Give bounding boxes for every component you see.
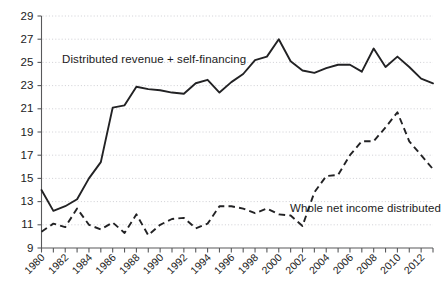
x-tick-label: 2000 — [259, 251, 284, 276]
gridlines-group — [43, 16, 434, 225]
x-tick-label: 1984 — [69, 251, 94, 276]
x-tick-label: 1990 — [140, 251, 165, 276]
x-tick-label: 1992 — [164, 251, 189, 276]
line-chart: 911131517192123252729 198019821984198619… — [0, 0, 446, 296]
x-tick-label: 2006 — [330, 251, 355, 276]
x-tick-label: 2012 — [401, 251, 426, 276]
y-tick-label: 29 — [21, 10, 34, 22]
y-tick-label: 17 — [21, 149, 34, 161]
x-tick-label: 1994 — [188, 251, 213, 276]
x-axis-ticks-group — [42, 248, 434, 253]
y-tick-label: 19 — [21, 126, 34, 138]
x-tick-label: 2002 — [283, 251, 308, 276]
x-tick-label: 2004 — [306, 251, 331, 276]
y-tick-label: 9 — [27, 242, 34, 254]
x-tick-label: 2008 — [354, 251, 379, 276]
x-tick-label: 1996 — [211, 251, 236, 276]
x-tick-label: 1980 — [22, 251, 47, 276]
x-tick-label: 1998 — [235, 251, 260, 276]
x-tick-label: 1982 — [45, 251, 70, 276]
y-tick-label: 11 — [21, 218, 33, 230]
x-tick-label: 1988 — [117, 251, 142, 276]
chart-canvas: 911131517192123252729 198019821984198619… — [0, 0, 446, 296]
y-tick-label: 25 — [21, 56, 34, 68]
annotation-distributed-revenue: Distributed revenue + self-financing — [62, 53, 246, 65]
x-tick-label: 2010 — [378, 251, 403, 276]
y-axis-ticks-group — [38, 16, 42, 248]
y-tick-label: 21 — [21, 102, 34, 114]
series-line-whole-net-income — [42, 112, 434, 235]
y-tick-label: 23 — [21, 79, 34, 91]
x-tick-label: 1986 — [93, 251, 118, 276]
y-axis-labels-group: 911131517192123252729 — [21, 10, 34, 254]
y-tick-label: 27 — [21, 33, 34, 45]
annotation-whole-net-income: Whole net income distributed — [290, 202, 441, 214]
x-axis-labels-group: 1980198219841986198819901992199419961998… — [22, 251, 427, 276]
y-tick-label: 15 — [21, 172, 34, 184]
y-tick-label: 13 — [21, 195, 34, 207]
